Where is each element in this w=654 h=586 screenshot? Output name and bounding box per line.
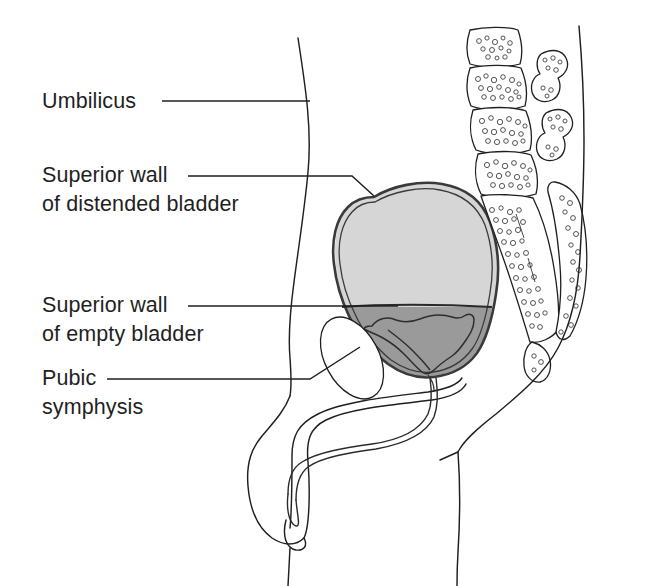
label-umbilicus: Umbilicus bbox=[42, 89, 136, 113]
label-superior-wall-distended-line2: of distended bladder bbox=[42, 192, 239, 216]
diagram-canvas: Umbilicus Superior wall of distended bla… bbox=[0, 0, 654, 586]
label-pubic-symphysis-line2: symphysis bbox=[42, 395, 143, 419]
label-superior-wall-empty-line2: of empty bladder bbox=[42, 322, 204, 346]
distended-bladder-fill bbox=[335, 183, 498, 307]
vertebral-body-4 bbox=[476, 152, 538, 198]
label-pubic-symphysis-line1: Pubic bbox=[42, 366, 96, 390]
anatomical-figure: Umbilicus Superior wall of distended bla… bbox=[0, 0, 654, 586]
label-superior-wall-empty-line1: Superior wall bbox=[42, 293, 168, 317]
label-superior-wall-distended-line1: Superior wall bbox=[42, 163, 168, 187]
vertebral-body-1 bbox=[467, 27, 522, 67]
